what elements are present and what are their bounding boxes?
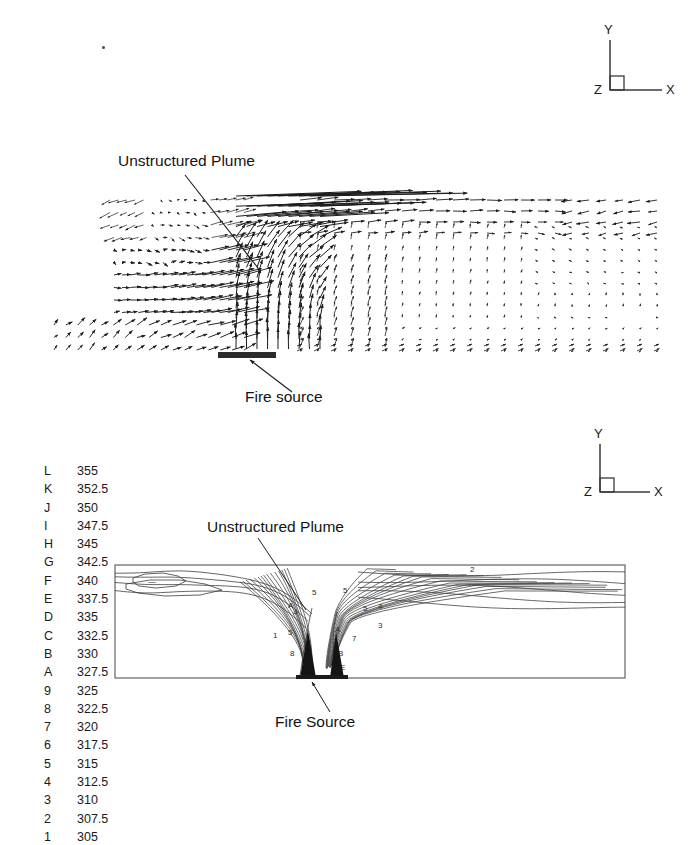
svg-text:5: 5 — [363, 604, 368, 613]
legend-key: 8 — [44, 700, 70, 718]
svg-text:7: 7 — [352, 634, 357, 643]
velocity-vector-panel — [0, 0, 692, 430]
legend-key: 5 — [44, 755, 70, 773]
legend-key: 6 — [44, 736, 70, 754]
legend-key: B — [44, 645, 70, 663]
legend-key: 2 — [44, 810, 70, 828]
legend-key: 1 — [44, 828, 70, 845]
svg-text:—: — — [148, 577, 156, 586]
legend-key: A — [44, 663, 70, 681]
legend-value: 332.5 — [77, 627, 108, 645]
legend-value: 345 — [77, 535, 98, 553]
legend-value: 350 — [77, 499, 98, 517]
legend-value: 355 — [77, 462, 98, 480]
svg-text:A: A — [288, 601, 294, 610]
legend-key: J — [44, 499, 70, 517]
svg-text:8: 8 — [290, 649, 295, 658]
leader-line-unstructured-plume-top — [185, 175, 258, 268]
svg-text:5: 5 — [343, 586, 348, 595]
leader-line-fire-source-bottom — [312, 682, 330, 712]
legend-key: L — [44, 462, 70, 480]
svg-text:4: 4 — [293, 608, 298, 617]
axis-label-x-bottom: X — [654, 484, 663, 499]
axis-triad-top: Y X Z — [596, 28, 676, 108]
legend-value: 307.5 — [77, 810, 108, 828]
svg-text:5: 5 — [288, 628, 293, 637]
callout-fire-source-top: Fire source — [245, 388, 323, 406]
callout-unstructured-plume-top: Unstructured Plume — [118, 152, 255, 170]
axis-label-x-top: X — [666, 82, 675, 97]
legend-key: E — [44, 590, 70, 608]
legend-key: G — [44, 553, 70, 571]
legend-value: 327.5 — [77, 663, 108, 681]
legend-value: 342.5 — [77, 553, 108, 571]
svg-text:5: 5 — [312, 588, 317, 597]
legend-key: 4 — [44, 773, 70, 791]
fire-source-marker-bottom — [296, 675, 348, 679]
axis-triad-bottom-icon — [586, 432, 666, 512]
axis-label-z-bottom: Z — [584, 484, 592, 499]
axis-label-z-top: Z — [594, 82, 602, 97]
legend-value: 310 — [77, 791, 98, 809]
callout-fire-source-bottom: Fire Source — [275, 713, 355, 731]
fire-source-marker-top — [218, 352, 276, 358]
legend-value: 335 — [77, 608, 98, 626]
axis-label-y-bottom: Y — [594, 426, 603, 441]
legend-key: 7 — [44, 718, 70, 736]
legend-key: D — [44, 608, 70, 626]
svg-text:1: 1 — [273, 631, 278, 640]
legend-value: 325 — [77, 682, 98, 700]
legend-value: 352.5 — [77, 480, 108, 498]
legend-value: 330 — [77, 645, 98, 663]
legend-key: I — [44, 517, 70, 535]
legend-value: 320 — [77, 718, 98, 736]
legend-value: 337.5 — [77, 590, 108, 608]
svg-text:2: 2 — [470, 565, 475, 574]
axis-label-y-top: Y — [604, 22, 613, 37]
legend-value: 312.5 — [77, 773, 108, 791]
legend-value: 322.5 — [77, 700, 108, 718]
svg-text:3: 3 — [378, 621, 383, 630]
legend-value: 347.5 — [77, 517, 108, 535]
legend-key: H — [44, 535, 70, 553]
legend-value: 305 — [77, 828, 98, 845]
legend-key: F — [44, 572, 70, 590]
svg-text:A: A — [335, 625, 341, 634]
legend-key: C — [44, 627, 70, 645]
legend-value: 315 — [77, 755, 98, 773]
legend-key: 9 — [44, 682, 70, 700]
axis-triad-top-icon — [596, 28, 676, 108]
callout-unstructured-plume-bottom: Unstructured Plume — [207, 518, 344, 536]
legend-value: 340 — [77, 572, 98, 590]
legend-key: K — [44, 480, 70, 498]
svg-text:4: 4 — [378, 602, 383, 611]
axis-triad-bottom: Y X Z — [586, 432, 666, 512]
legend-key: 3 — [44, 791, 70, 809]
legend-value: 317.5 — [77, 736, 108, 754]
